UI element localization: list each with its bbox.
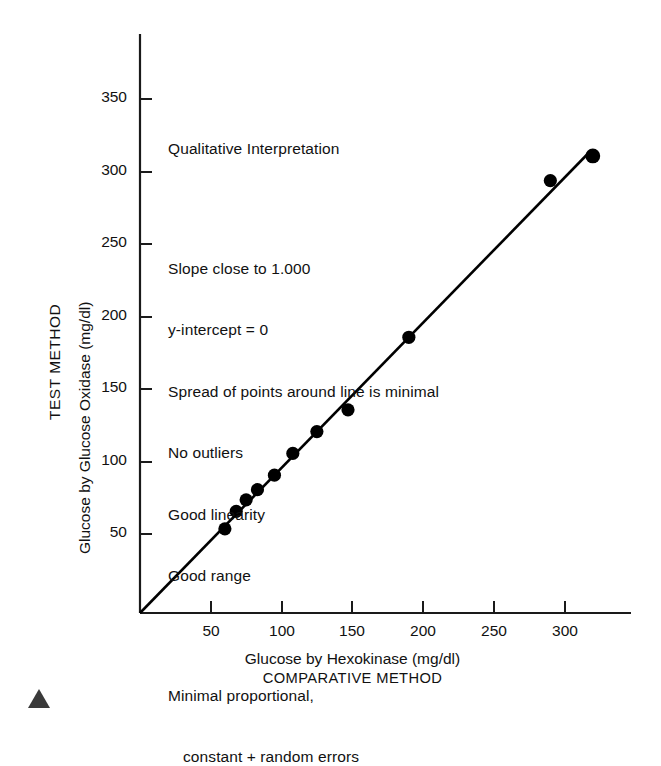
x-tick-label-300: 300 [540, 622, 590, 640]
x-tick-label-200: 200 [398, 622, 448, 640]
x-tick-label-250: 250 [469, 622, 519, 640]
y-axis-ticks [140, 99, 152, 534]
annotation-footer-line2: constant + random errors [168, 747, 439, 766]
annotation-line-linearity: Good linearity [168, 505, 439, 526]
annotation-line-range: Good range [168, 566, 439, 587]
y-axis-title-method: TEST METHOD [46, 304, 64, 420]
x-tick-label-100: 100 [257, 622, 307, 640]
x-tick-label-50: 50 [186, 622, 236, 640]
data-point [544, 174, 557, 187]
annotation-line-outliers: No outliers [168, 443, 439, 464]
y-tick-label-350: 350 [83, 88, 127, 106]
y-axis-title-main: Glucose by Glucose Oxidase (mg/dl) [76, 302, 94, 554]
annotation-line-slope: Slope close to 1.000 [168, 259, 439, 280]
data-point [585, 148, 600, 163]
triangle-marker-icon [28, 689, 50, 708]
annotation-spacer [168, 201, 439, 218]
annotation-footer-line1: Minimal proportional, [168, 686, 439, 707]
x-axis-title-main: Glucose by Hexokinase (mg/dl) [22, 650, 661, 668]
x-axis-title-method: COMPARATIVE METHOD [22, 670, 661, 686]
annotation-line-spread: Spread of points around line is minimal [168, 382, 439, 403]
y-tick-label-250: 250 [83, 233, 127, 251]
y-tick-label-300: 300 [83, 161, 127, 179]
x-tick-label-150: 150 [327, 622, 377, 640]
annotation-line-intercept: y-intercept = 0 [168, 320, 439, 341]
annotation-heading: Qualitative Interpretation [168, 139, 439, 160]
